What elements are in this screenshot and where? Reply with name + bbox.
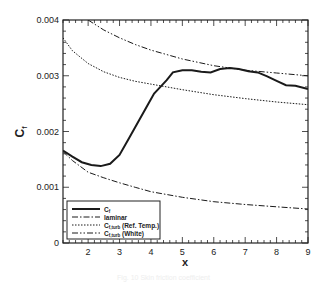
series-layer bbox=[63, 20, 308, 209]
y-tick-label: 0 bbox=[54, 238, 59, 248]
series-line-2 bbox=[63, 38, 308, 105]
series-line-1 bbox=[63, 152, 308, 209]
figure-caption: Fig. 10 Skin friction coefficient bbox=[0, 274, 327, 281]
series-line-0 bbox=[63, 68, 308, 166]
y-tick-label: 0.002 bbox=[36, 127, 59, 137]
x-tick-label: 4 bbox=[148, 247, 153, 257]
svg-text:Cf: Cf bbox=[13, 126, 28, 138]
y-tick-label: 0.001 bbox=[36, 182, 59, 192]
y-tick-label: 0.003 bbox=[36, 71, 59, 81]
legend-entry-1: laminar bbox=[104, 214, 128, 221]
y-axis-label: Cf bbox=[13, 126, 28, 138]
y-tick-label: 0.004 bbox=[36, 15, 59, 25]
x-tick-label: 3 bbox=[117, 247, 122, 257]
x-tick-label: 2 bbox=[86, 247, 91, 257]
legend: CflaminarCf,turb (Ref. Temp.)Cf,turb (Wh… bbox=[67, 201, 160, 239]
x-tick-label: 9 bbox=[305, 247, 310, 257]
x-tick-label: 7 bbox=[243, 247, 248, 257]
x-tick-label: 6 bbox=[211, 247, 216, 257]
x-axis-label: x bbox=[182, 256, 189, 268]
series-line-3 bbox=[88, 20, 308, 76]
x-tick-label: 8 bbox=[274, 247, 279, 257]
skin-friction-chart: 23456789 00.0010.0020.0030.004 x Cf Cfla… bbox=[0, 0, 327, 287]
